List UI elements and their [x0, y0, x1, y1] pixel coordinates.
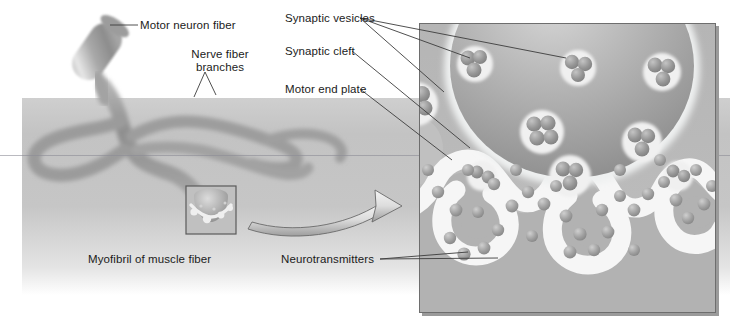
leader-nerve-fiber-branches [194, 72, 216, 97]
leader-neurotransmitters [380, 252, 498, 259]
label-nerve-fiber-branches: Nerve fiber branches [188, 48, 252, 74]
leader-synaptic-cleft [352, 51, 470, 148]
leader-motor-end-plate [360, 89, 452, 160]
leader-lines [0, 0, 730, 329]
label-motor-neuron-fiber: Motor neuron fiber [140, 19, 236, 32]
label-neurotransmitters: Neurotransmitters [281, 253, 374, 266]
label-myofibril-of-muscle-fiber: Myofibril of muscle fiber [88, 253, 211, 266]
figure-canvas: Motor neuron fiber Nerve fiber branches … [0, 0, 730, 329]
label-synaptic-vesicles: Synaptic vesicles [285, 12, 375, 25]
label-motor-end-plate: Motor end plate [285, 83, 366, 96]
leader-synaptic-vesicles [360, 18, 566, 92]
label-synaptic-cleft: Synaptic cleft [285, 45, 355, 58]
